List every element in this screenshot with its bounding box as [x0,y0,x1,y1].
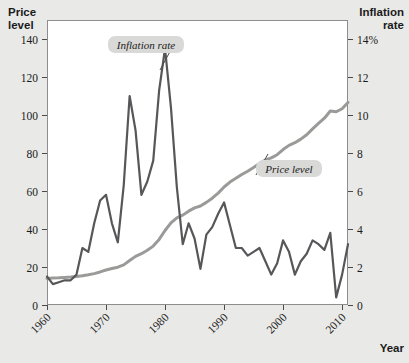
left-axis-title-line1: Price [8,6,36,18]
left-tick-label: 20 [27,262,39,274]
right-tick-label: 6 [357,186,363,198]
right-axis-title-line2: rate [383,19,404,31]
right-tick-label: 10 [357,110,369,122]
right-tick-label: 12 [357,72,369,84]
left-tick-label: 100 [21,110,39,122]
right-tick-label: 4 [357,224,363,236]
right-axis-title-line1: Inflation [359,6,404,18]
right-tick-label: 2 [357,262,363,274]
inflation-callout-label: Inflation rate [116,39,175,51]
right-tick-label: 0 [357,300,363,312]
right-tick-label: 14% [357,34,379,46]
left-tick-label: 80 [27,148,39,160]
left-tick-label: 0 [32,300,38,312]
left-axis-title-line2: level [8,19,34,31]
price-callout-label: Price level [264,163,312,175]
left-tick-label: 120 [21,72,39,84]
chart-figure: 020406080100120140 02468101214% 19601970… [0,0,409,363]
left-tick-label: 140 [21,34,39,46]
right-tick-label: 8 [357,148,363,160]
left-tick-label: 40 [27,224,39,236]
chart-canvas: 020406080100120140 02468101214% 19601970… [0,0,409,363]
x-axis-title: Year [380,342,405,354]
left-tick-label: 60 [27,186,39,198]
